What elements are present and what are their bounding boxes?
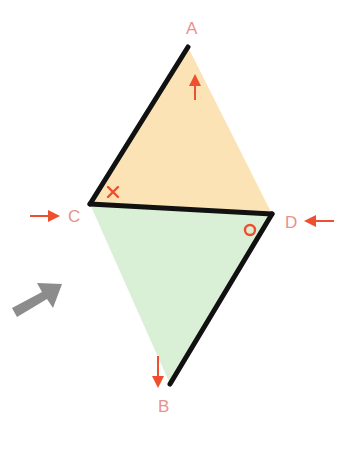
gray-arrow-icon	[12, 283, 62, 317]
label-d: D	[285, 214, 297, 231]
label-a: A	[186, 20, 197, 37]
label-c: C	[68, 208, 80, 225]
label-b: B	[158, 398, 169, 415]
